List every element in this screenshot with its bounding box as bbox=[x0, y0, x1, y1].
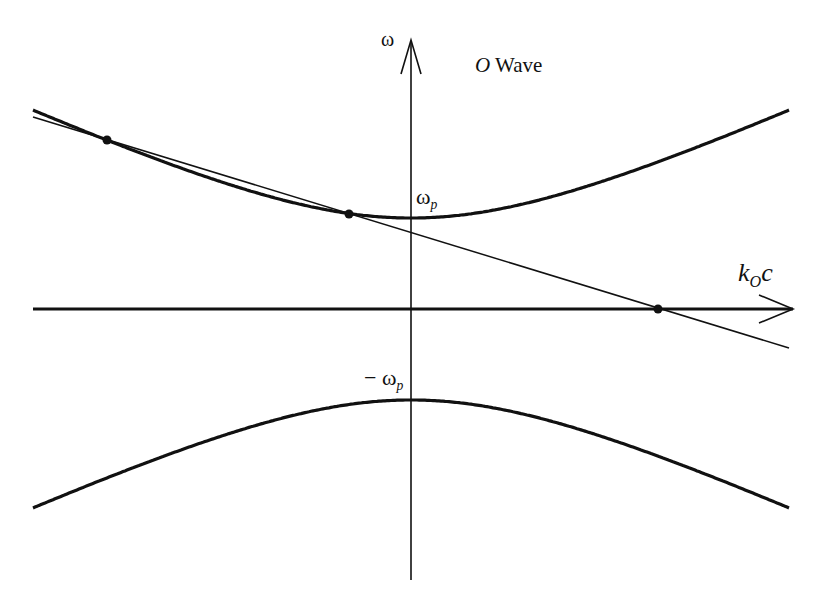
x-label-c: c bbox=[761, 258, 773, 287]
neg-omega-sub: p bbox=[396, 378, 403, 393]
neg-omega-p-label: − ωp bbox=[364, 365, 403, 394]
intersection-point bbox=[345, 210, 354, 219]
title-rest: Wave bbox=[490, 53, 542, 77]
neg-omega-symbol: − ω bbox=[364, 365, 396, 390]
title-italic: O bbox=[475, 53, 490, 77]
dispersion-diagram bbox=[0, 0, 821, 608]
x-label-k: k bbox=[738, 258, 750, 287]
omega-sub: p bbox=[430, 197, 437, 212]
x-label-sub: O bbox=[750, 273, 762, 290]
intersection-point bbox=[654, 305, 663, 314]
omega-p-label: ωp bbox=[416, 184, 437, 213]
axes bbox=[33, 40, 793, 580]
x-axis-label: kOc bbox=[738, 258, 773, 291]
diagram-title: O Wave bbox=[475, 53, 542, 78]
omega-symbol: ω bbox=[416, 184, 430, 209]
y-axis-label: ω bbox=[381, 28, 394, 51]
intersection-point bbox=[103, 136, 112, 145]
